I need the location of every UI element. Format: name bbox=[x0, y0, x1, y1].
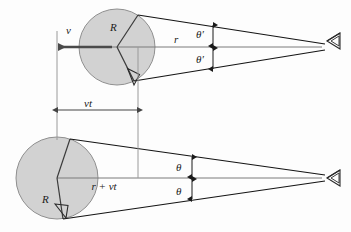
figure-container: v R r θ′ θ′ vt bbox=[0, 0, 351, 232]
tangent-ray-upper-bottom bbox=[134, 50, 325, 81]
upper-panel: v R r θ′ θ′ bbox=[57, 9, 340, 120]
physics-diagram: v R r θ′ θ′ vt bbox=[0, 0, 351, 232]
label-radius-lower: R bbox=[41, 193, 49, 205]
label-theta-lower: θ bbox=[176, 185, 182, 197]
eye-icon bbox=[327, 33, 340, 49]
eye-icon bbox=[327, 170, 340, 186]
tangent-ray-lower-top bbox=[70, 139, 325, 175]
label-theta-prime-lower: θ′ bbox=[196, 53, 204, 65]
displacement-measure: vt bbox=[58, 97, 137, 110]
label-displacement: vt bbox=[84, 97, 93, 109]
label-theta-upper: θ bbox=[176, 161, 182, 173]
label-distance-upper: r bbox=[174, 33, 179, 45]
label-radius-upper: R bbox=[109, 21, 117, 33]
lower-panel: R r + vt θ θ bbox=[16, 120, 340, 219]
label-velocity-upper: v bbox=[66, 24, 71, 36]
label-theta-prime-upper: θ′ bbox=[196, 28, 204, 40]
label-distance-lower: r + vt bbox=[91, 180, 117, 192]
tangent-ray-upper-top bbox=[138, 15, 325, 44]
